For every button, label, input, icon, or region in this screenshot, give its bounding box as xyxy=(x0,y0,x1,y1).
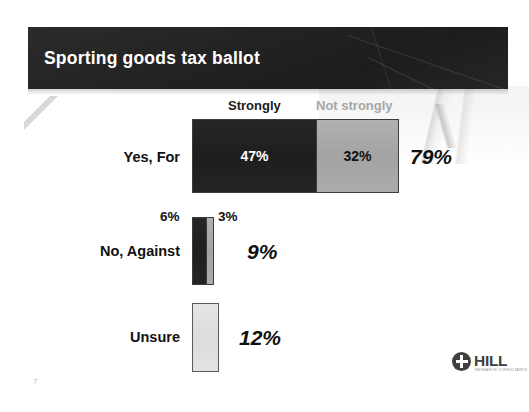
bar-segment-no-not-strongly xyxy=(206,218,213,284)
page-number: 7 xyxy=(33,377,37,386)
table-row: 47% 32% xyxy=(192,119,399,193)
bar-segment-unsure xyxy=(193,304,218,371)
table-row xyxy=(192,303,219,372)
bar-total-yes-for: 79% xyxy=(410,145,452,169)
category-label-unsure: Unsure xyxy=(60,329,180,345)
chart-plot-area: Yes, For 47% 32% 79% No, Against 6% 3% 9… xyxy=(0,0,529,412)
hill-logo: HILL RESEARCH CONSULTANTS xyxy=(452,351,518,377)
bar-segment-yes-not-strongly: 32% xyxy=(316,120,398,192)
bar-value-yes-not-strongly: 32% xyxy=(317,148,398,164)
bar-total-no-against: 9% xyxy=(247,240,277,264)
hill-logo-tagline: RESEARCH CONSULTANTS xyxy=(475,368,527,372)
bar-segment-yes-strongly: 47% xyxy=(193,120,316,192)
slide: Sporting goods tax ballot Strongly Not s… xyxy=(0,0,529,412)
bar-total-unsure: 12% xyxy=(239,326,281,350)
bar-value-no-strongly: 6% xyxy=(160,209,180,224)
category-label-no-against: No, Against xyxy=(60,243,180,259)
bar-segment-no-strongly xyxy=(193,218,206,284)
bar-value-no-not-strongly: 3% xyxy=(218,209,238,224)
table-row xyxy=(192,217,214,285)
hill-logo-mark-icon xyxy=(452,352,471,371)
category-label-yes-for: Yes, For xyxy=(60,149,180,165)
bar-value-yes-strongly: 47% xyxy=(193,148,316,164)
